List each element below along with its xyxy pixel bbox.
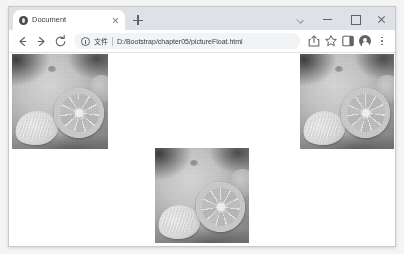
kebab-menu-icon[interactable] — [374, 33, 390, 49]
reload-icon[interactable] — [52, 33, 69, 50]
page-viewport — [9, 53, 395, 246]
address-bar-url: D:/Bootstrap/chapter05/pictureFloat.html — [117, 38, 293, 45]
maximize-icon[interactable] — [341, 8, 368, 29]
window-controls — [287, 7, 395, 30]
picture-center — [155, 148, 249, 243]
toolbar-actions — [306, 33, 390, 49]
back-icon[interactable] — [14, 33, 31, 50]
share-icon[interactable] — [306, 33, 322, 49]
globe-icon — [19, 16, 28, 25]
minimize-icon[interactable] — [314, 8, 341, 29]
tab-strip: Document — [9, 7, 395, 30]
address-bar[interactable]: 文件 D:/Bootstrap/chapter05/pictureFloat.h… — [74, 33, 300, 49]
profile-avatar[interactable] — [357, 33, 373, 49]
screen: Document — [0, 0, 404, 254]
tab-search-icon[interactable] — [287, 8, 314, 29]
forward-icon[interactable] — [33, 33, 50, 50]
tab-document[interactable]: Document — [13, 10, 125, 30]
bookmark-star-icon[interactable] — [323, 33, 339, 49]
info-circle-icon[interactable] — [81, 37, 90, 46]
omnibox-divider — [112, 37, 113, 46]
browser-toolbar: 文件 D:/Bootstrap/chapter05/pictureFloat.h… — [9, 30, 395, 53]
browser-window: Document — [8, 6, 396, 247]
close-icon[interactable] — [110, 15, 120, 25]
picture-float-left — [12, 54, 108, 149]
tab-title: Document — [32, 16, 106, 24]
new-tab-button[interactable] — [129, 11, 147, 29]
picture-float-right — [300, 54, 394, 149]
window-close-icon[interactable] — [368, 8, 395, 29]
omnibox-scheme-label: 文件 — [94, 36, 108, 46]
side-panel-icon[interactable] — [340, 33, 356, 49]
